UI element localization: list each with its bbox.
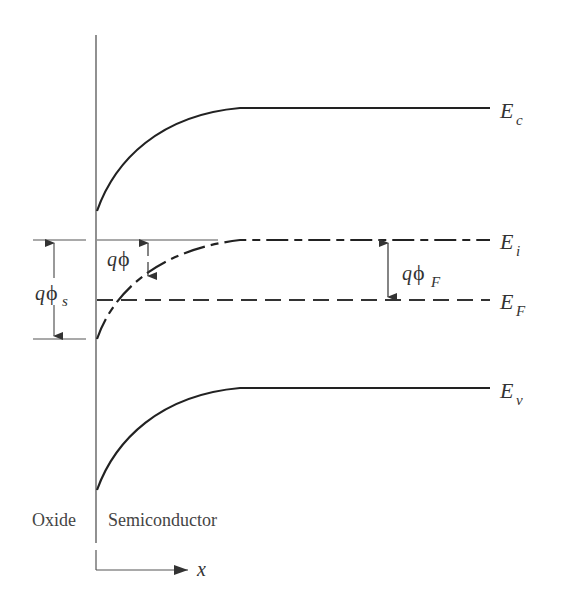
semiconductor-label: Semiconductor <box>108 510 217 530</box>
ev-symbol: E <box>499 378 514 403</box>
ei-subscript: i <box>516 243 520 259</box>
qphi-f-subscript: F <box>430 274 441 290</box>
intrinsic-level-label: E i <box>499 229 520 259</box>
qphi-s-subscript: s <box>62 293 68 309</box>
qphi-s-label: q ϕ s <box>35 280 68 309</box>
qphi-s-q: q <box>35 282 45 305</box>
ec-symbol: E <box>499 98 514 123</box>
qphi-s-phi: ϕ <box>46 280 58 305</box>
ei-symbol: E <box>499 229 514 254</box>
qphi-label: q ϕ <box>107 246 130 271</box>
qphi-q: q <box>107 248 117 271</box>
oxide-label: Oxide <box>32 510 76 530</box>
valence-band-curve <box>97 388 490 490</box>
conduction-band-label: E c <box>499 98 523 128</box>
ef-symbol: E <box>499 289 514 314</box>
valence-band-label: E v <box>499 378 523 408</box>
x-axis-label: x <box>196 558 206 580</box>
qphi-f-label: q ϕ F <box>402 260 441 290</box>
qphi-phi: ϕ <box>118 246 130 271</box>
qphi-f-phi: ϕ <box>413 260 425 285</box>
ec-subscript: c <box>516 112 523 128</box>
qphi-f-q: q <box>402 262 412 285</box>
conduction-band-curve <box>97 108 490 211</box>
ev-subscript: v <box>516 392 523 408</box>
band-diagram: E c E i E F q ϕ s q ϕ q ϕ F E v <box>0 0 569 610</box>
ef-subscript: F <box>515 303 526 319</box>
fermi-level-label: E F <box>499 289 526 319</box>
